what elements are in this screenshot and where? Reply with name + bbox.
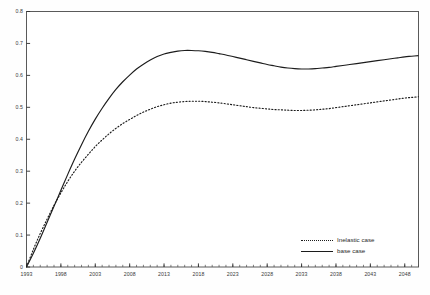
legend-swatch-dotted-line-icon bbox=[300, 236, 334, 244]
legend-label-inelastic-case: Inelastic case bbox=[334, 236, 375, 243]
legend-item-base-case: base case bbox=[300, 245, 418, 256]
y-axis-tick-label: 0.5 bbox=[0, 104, 23, 110]
y-axis-tick-label: 0.8 bbox=[0, 8, 23, 14]
x-axis-tick-label: 2008 bbox=[115, 271, 145, 277]
chart-legend: Inelastic case base case bbox=[300, 234, 418, 256]
x-axis-tick-label: 2043 bbox=[355, 271, 385, 277]
y-axis-tick-label: 0.4 bbox=[0, 136, 23, 142]
x-axis-tick-label: 1993 bbox=[12, 271, 42, 277]
x-axis-tick-label: 2013 bbox=[149, 271, 179, 277]
x-axis-tick-label: 2048 bbox=[390, 271, 420, 277]
legend-item-inelastic-case: Inelastic case bbox=[300, 234, 418, 245]
y-axis-tick-label: 0.1 bbox=[0, 232, 23, 238]
y-axis-tick-label: 0.3 bbox=[0, 168, 23, 174]
chart-figure: 00.10.20.30.40.50.60.70.8 19931998200320… bbox=[0, 0, 430, 295]
x-axis-tick-label: 2003 bbox=[80, 271, 110, 277]
y-axis-tick-label: 0.7 bbox=[0, 40, 23, 46]
legend-label-base-case: base case bbox=[334, 247, 365, 254]
x-axis-tick-label: 2028 bbox=[252, 271, 282, 277]
x-axis-tick-label: 2023 bbox=[218, 271, 248, 277]
x-axis-tick-label: 1998 bbox=[46, 271, 76, 277]
y-axis-tick-label: 0.2 bbox=[0, 200, 23, 206]
x-axis-tick-label: 2033 bbox=[287, 271, 317, 277]
legend-swatch-solid-line-icon bbox=[300, 247, 334, 255]
y-axis-tick-label: 0 bbox=[0, 264, 23, 270]
x-axis-tick-label: 2018 bbox=[183, 271, 213, 277]
plot-border bbox=[27, 12, 419, 268]
x-axis-tick-label: 2038 bbox=[321, 271, 351, 277]
y-axis-tick-label: 0.6 bbox=[0, 72, 23, 78]
